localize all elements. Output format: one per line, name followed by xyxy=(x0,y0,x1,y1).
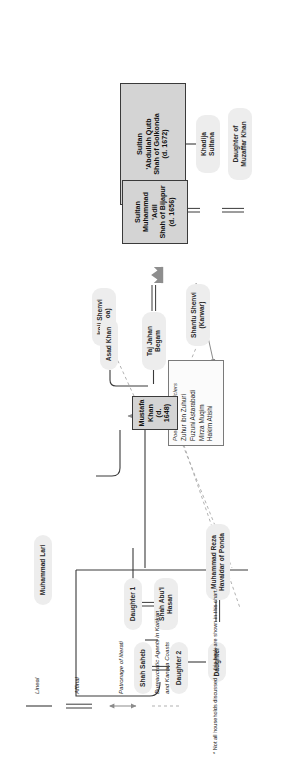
chart-stage: Sultan 'Abdullah Qutb Shah of Golkonda (… xyxy=(0,0,294,768)
node-line: Asad Khan xyxy=(105,327,113,361)
node-death-year: (d. 1672) xyxy=(161,129,169,158)
node-line: Muhammad 'Adil xyxy=(142,184,159,240)
legend-label-lineal: Lineal xyxy=(33,678,41,694)
legend-label-bureaucratic-line1: Bureaucratic Agents in Konkan xyxy=(153,611,161,694)
legend-label-patronage: Patronage of literati xyxy=(117,641,125,694)
legend: Lineal Affinal Patronage of literati Bur… xyxy=(0,518,294,768)
node-daughter-of-muzaffar-khan[interactable]: Daughter of Muzaffar Khan xyxy=(228,108,252,180)
node-death-year: (d. 1648) xyxy=(155,400,172,426)
edge-mustafa-branch xyxy=(96,430,120,476)
node-death-year: (d. 1656) xyxy=(168,197,176,226)
footnote: * Not all households discussed in this b… xyxy=(212,589,218,754)
node-asad-khan[interactable]: Asad Khan xyxy=(100,318,118,370)
node-line: Daughter of xyxy=(232,126,240,163)
node-sultan-muhammad-adil-shah[interactable]: Sultan Muhammad 'Adil Shah of Bijapur (d… xyxy=(122,180,188,244)
poet-name: Fuzuni Astarabadi xyxy=(189,365,198,441)
poet-name: Hakim Atishi xyxy=(206,365,215,441)
edge-lineal-asad-join xyxy=(110,370,148,386)
legend-label-affinal: Affinal xyxy=(73,677,81,694)
chart-canvas: Sultan 'Abdullah Qutb Shah of Golkonda (… xyxy=(0,0,294,768)
node-line: (Karwar) xyxy=(198,302,206,329)
node-line: Sultana xyxy=(208,132,216,156)
crown-icon-bijapur xyxy=(150,266,164,284)
node-mustafa-khan[interactable]: Mustafa Khan (d. 1648) xyxy=(132,396,178,430)
node-line: Muzaffar Khan xyxy=(240,121,248,166)
legend-label-bureaucratic-line2: and Kanara Coasts xyxy=(163,642,171,694)
node-line: Khadija xyxy=(200,132,208,156)
node-line: Mustafa Khan xyxy=(138,399,155,426)
node-khadija-sultana[interactable]: Khadija Sultana xyxy=(196,115,220,173)
node-taj-jahan-begam[interactable]: Taj Jahan Begam xyxy=(142,312,166,370)
node-line: Begam xyxy=(154,330,162,352)
node-line: Taj Jahan xyxy=(146,326,154,356)
node-shantu-shenvi[interactable]: Shantu Shenvi (Karwar) xyxy=(186,284,210,346)
node-line: Shantu Shenvi xyxy=(190,292,198,338)
poet-name: Mirza Muqim xyxy=(198,365,207,441)
poet-name: Zuhur ibn Zuhuri xyxy=(180,365,189,441)
